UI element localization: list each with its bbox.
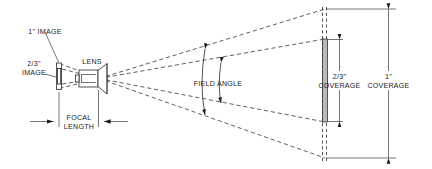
focal-length-dimension: FOCAL LENGTH [30, 90, 128, 131]
lens-barrel [79, 70, 98, 87]
focal-length-label-line2: LENGTH [64, 123, 94, 131]
ray-23-upper-image [99, 39, 325, 79]
coverage-bar-two-thirds-body [323, 39, 328, 122]
focal-length-label-line1: FOCAL [67, 114, 92, 122]
coverage-1in-label-line1: 1" [385, 73, 392, 81]
leader-two-thirds-image [45, 74, 56, 77]
lens-coverage-diagram: FOCAL LENGTH 2/3" COVERAGE 1" [0, 0, 432, 169]
lens-label: LENS [82, 58, 102, 66]
image-two-thirds-label-line2: IMAGE [22, 69, 46, 77]
image-plane-two-thirds-body [58, 69, 61, 85]
field-angle-label: FIELD ANGLE [194, 80, 243, 88]
ray-1in-upper-image [99, 9, 325, 79]
coverage-1in-label-line2: COVERAGE [367, 82, 409, 90]
coverage-two-thirds-label-line2: COVERAGE [318, 82, 360, 90]
lens-front-cone [98, 64, 107, 95]
image-1in-label: 1" IMAGE [28, 28, 61, 36]
coverage-bar-two-thirds [323, 39, 328, 122]
image-plane-two-thirds [58, 69, 61, 85]
image-two-thirds-label-line1: 2/3" [27, 60, 41, 68]
coverage-two-thirds-label-line1: 2/3" [333, 73, 347, 81]
diagram-canvas: FOCAL LENGTH 2/3" COVERAGE 1" [0, 0, 432, 169]
lens-assembly [76, 64, 108, 95]
lens-mount-nub [76, 75, 80, 82]
ray-1in-lower-image [99, 79, 325, 159]
leader-1in-image [45, 32, 59, 62]
